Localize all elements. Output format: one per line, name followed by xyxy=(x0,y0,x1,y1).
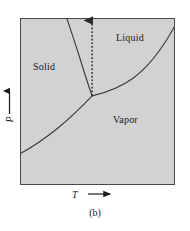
x-axis-label: T xyxy=(72,189,78,200)
fusion-curve-path xyxy=(65,14,92,96)
figure-caption: (b) xyxy=(0,207,190,218)
phase-boundary-curves xyxy=(0,0,190,231)
y-axis-label-group: P xyxy=(1,84,19,130)
region-label-vapor: Vapor xyxy=(113,114,138,125)
y-axis-label: P xyxy=(4,112,15,128)
vaporization-curve-path xyxy=(92,18,178,96)
x-axis-label-group: T xyxy=(72,187,81,201)
sublimation-curve-path xyxy=(19,96,93,155)
phase-diagram-figure: Solid Liquid Vapor P T (b) xyxy=(0,0,190,231)
region-label-liquid: Liquid xyxy=(116,32,144,43)
region-label-solid: Solid xyxy=(33,61,55,72)
